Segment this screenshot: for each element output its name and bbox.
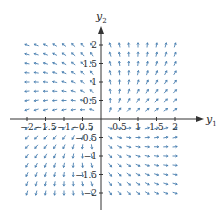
field-arrow <box>81 43 84 46</box>
field-arrow <box>128 89 130 93</box>
field-arrow <box>174 90 177 93</box>
field-arrow <box>146 108 149 111</box>
field-arrow <box>34 44 38 46</box>
field-arrow <box>35 163 37 167</box>
field-arrow <box>53 109 57 111</box>
field-arrow <box>174 43 176 47</box>
field-arrow <box>44 44 48 46</box>
field-arrow <box>44 53 48 55</box>
field-arrow <box>164 155 168 157</box>
field-arrow <box>155 192 159 194</box>
field-arrow <box>26 173 28 177</box>
x-tick-label: −2 <box>20 122 33 132</box>
field-arrow <box>26 145 29 148</box>
field-arrow <box>25 44 29 46</box>
field-arrow <box>71 90 75 92</box>
field-arrow <box>53 136 56 139</box>
field-arrow <box>53 44 57 46</box>
field-arrow <box>165 62 167 66</box>
field-arrow <box>118 191 121 194</box>
field-arrow <box>155 109 158 111</box>
field-arrow <box>25 81 29 83</box>
field-arrow <box>81 53 84 56</box>
field-arrow <box>62 62 66 64</box>
field-arrow <box>53 100 57 102</box>
field-arrow <box>119 71 121 75</box>
field-arrow <box>146 52 148 56</box>
field-arrow <box>128 43 130 47</box>
field-arrow <box>81 71 84 74</box>
field-arrow <box>72 44 75 47</box>
field-arrow <box>146 99 149 102</box>
field-arrow <box>164 174 168 176</box>
field-arrow <box>62 100 66 102</box>
field-arrow <box>165 43 167 47</box>
y-tick-label: 2 <box>91 40 97 50</box>
field-arrow <box>109 191 111 194</box>
field-arrow <box>137 89 139 93</box>
field-arrow <box>44 136 47 139</box>
field-arrow <box>155 174 159 176</box>
field-arrow <box>34 72 38 74</box>
field-arrow <box>173 146 177 148</box>
field-arrow <box>34 109 38 111</box>
x-tick-label: 0.5 <box>112 122 127 132</box>
field-arrow <box>54 154 56 158</box>
field-arrow <box>35 154 37 157</box>
field-arrow <box>145 165 149 167</box>
field-arrow <box>118 164 121 167</box>
field-arrow <box>137 80 139 84</box>
field-arrow <box>91 53 93 56</box>
field-arrow <box>154 136 158 138</box>
field-arrow <box>53 72 57 74</box>
field-arrow <box>63 191 65 195</box>
field-arrow <box>63 182 65 186</box>
field-arrow <box>91 182 93 186</box>
field-arrow <box>26 154 29 157</box>
field-arrow <box>146 43 148 47</box>
field-arrow <box>71 109 75 111</box>
field-arrow <box>118 146 122 148</box>
y-tick-label: −1 <box>84 151 97 161</box>
field-arrow <box>155 90 158 93</box>
field-arrow <box>119 80 121 84</box>
field-arrow <box>164 99 167 102</box>
field-arrow <box>34 53 38 55</box>
field-arrow <box>127 127 131 129</box>
field-arrow <box>118 182 121 185</box>
field-arrow <box>156 71 158 75</box>
field-arrow <box>109 173 111 176</box>
field-arrow <box>109 145 112 148</box>
field-arrow <box>44 154 46 158</box>
field-arrow <box>62 109 66 111</box>
field-arrow <box>54 163 56 167</box>
vector-field-chart: −2−1.5−1−0.50.511.5221.510.5−0.5−1−1.5−2… <box>0 0 221 218</box>
field-arrow <box>145 146 149 148</box>
field-arrow <box>35 182 37 186</box>
field-arrow <box>146 80 148 84</box>
x-tick-label: 2 <box>172 122 178 132</box>
field-arrow <box>43 100 47 102</box>
field-arrow <box>72 191 74 195</box>
field-arrow <box>164 192 168 194</box>
field-arrow <box>53 62 57 64</box>
field-arrow <box>127 182 130 185</box>
field-arrow <box>156 52 158 56</box>
field-arrow <box>118 155 121 158</box>
field-arrow <box>54 145 56 149</box>
y-axis-label: y2 <box>95 10 107 25</box>
field-arrow <box>118 52 120 56</box>
field-arrow <box>136 164 140 166</box>
field-arrow <box>174 52 176 56</box>
field-arrow <box>127 173 130 176</box>
field-arrow <box>26 163 28 167</box>
field-arrow <box>109 61 111 65</box>
field-arrow <box>136 137 140 139</box>
field-arrow <box>82 163 84 167</box>
field-arrow <box>109 80 111 84</box>
field-arrow <box>127 192 130 195</box>
field-arrow <box>173 99 176 102</box>
field-arrow <box>119 89 121 93</box>
field-arrow <box>34 90 38 92</box>
field-arrow <box>44 62 48 64</box>
